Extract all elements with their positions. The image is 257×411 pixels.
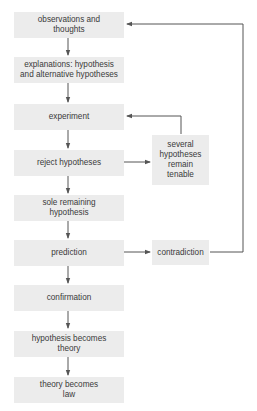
node-prediction: prediction bbox=[14, 240, 124, 266]
node-contradiction: contradiction bbox=[152, 240, 209, 265]
node-observations: observations and thoughts bbox=[14, 12, 124, 38]
node-explanations: explanations: hypothesis and alternative… bbox=[14, 57, 124, 83]
node-confirmation: confirmation bbox=[14, 285, 124, 311]
node-theory-becomes-law: theory becomes law bbox=[14, 377, 124, 403]
node-hypothesis-becomes-theory: hypothesis becomes theory bbox=[14, 331, 124, 357]
arrow-several-experiment bbox=[127, 116, 181, 134]
node-reject-hypotheses: reject hypotheses bbox=[14, 150, 124, 176]
node-experiment: experiment bbox=[14, 104, 124, 130]
node-sole-remaining-hypothesis: sole remaining hypothesis bbox=[14, 195, 124, 221]
node-several-hypotheses-remain-tenable: several hypotheses remain tenable bbox=[152, 135, 209, 185]
